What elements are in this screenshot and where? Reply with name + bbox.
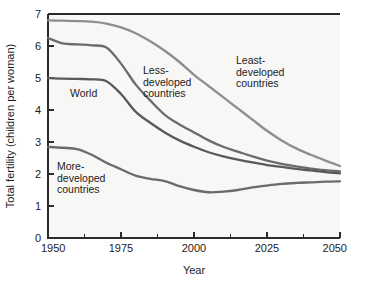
- more-developed-label-line-1: developed: [57, 172, 106, 184]
- y-tick-label-6: 6: [35, 40, 41, 52]
- world-label: World: [70, 87, 97, 99]
- x-tick-label-1950: 1950: [41, 242, 65, 254]
- y-axis-title: Total fertility (children per woman): [4, 44, 16, 208]
- y-tick-label-4: 4: [35, 104, 41, 116]
- y-tick-label-5: 5: [35, 72, 41, 84]
- less-developed-label-line-2: countries: [143, 87, 186, 99]
- x-tick-label-2050: 2050: [323, 242, 347, 254]
- less-developed-label-line-1: developed: [143, 76, 192, 88]
- x-axis-title: Year: [183, 264, 206, 276]
- least-developed-label-line-0: Least-: [236, 54, 266, 66]
- y-tick-label-2: 2: [35, 168, 41, 180]
- plot-area-background: [48, 14, 340, 238]
- chart-figure: 01234567 19501975200020252050 WorldLess-…: [0, 0, 367, 290]
- x-axis-tick-labels: 19501975200020252050: [41, 242, 347, 254]
- y-tick-label-3: 3: [35, 136, 41, 148]
- more-developed-label-line-0: More-: [57, 160, 85, 172]
- least-developed-label-line-1: developed: [236, 66, 285, 78]
- more-developed-label-line-2: countries: [57, 183, 100, 195]
- y-axis-tick-labels: 01234567: [35, 8, 41, 244]
- x-tick-label-2025: 2025: [255, 242, 279, 254]
- world-label-line-0: World: [70, 87, 97, 99]
- least-developed-label-line-2: countries: [236, 77, 279, 89]
- x-tick-label-2000: 2000: [182, 242, 206, 254]
- total-fertility-line-chart: 01234567 19501975200020252050 WorldLess-…: [0, 0, 367, 290]
- x-tick-label-1975: 1975: [109, 242, 133, 254]
- y-tick-label-1: 1: [35, 200, 41, 212]
- y-tick-label-7: 7: [35, 8, 41, 20]
- less-developed-label-line-0: Less-: [143, 64, 169, 76]
